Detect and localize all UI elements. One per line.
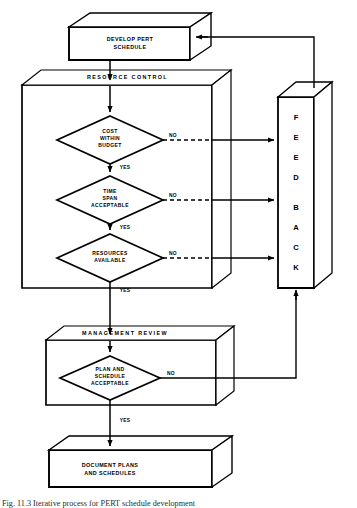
feedback-letter-f: F xyxy=(286,113,306,122)
decision-time-line1: TIME xyxy=(80,188,140,195)
feedback-letter-d: D xyxy=(286,173,306,182)
feedback-letter-b: B xyxy=(286,203,306,212)
decision-plan-line2: SCHEDULE xyxy=(77,373,143,380)
feedback-letter-k: K xyxy=(286,263,306,272)
develop-pert-schedule-line2: SCHEDULE xyxy=(89,44,171,51)
feedback-letter-e2: E xyxy=(286,153,306,162)
document-plans-line1: DOCUMENT PLANS xyxy=(69,462,151,469)
feedback-letter-c: C xyxy=(286,243,306,252)
decision-plan-line1: PLAN AND xyxy=(77,366,143,373)
decision-cost-line3: BUDGET xyxy=(80,142,140,149)
decision-cost-line1: COST xyxy=(80,128,140,135)
decision-time-line2: SPAN xyxy=(80,195,140,202)
decision-resources-line2: AVAILABLE xyxy=(76,257,144,264)
develop-pert-schedule-line1: DEVELOP PERT xyxy=(89,36,171,43)
branch-yes-time: YES xyxy=(114,225,136,231)
branch-yes-cost: YES xyxy=(114,165,136,171)
branch-yes-resources: YES xyxy=(114,288,136,294)
decision-plan-line3: ACCEPTABLE xyxy=(75,380,145,387)
figure-caption: Fig. 11.3 Iterative process for PERT sch… xyxy=(2,499,195,508)
feedback-letter-e1: E xyxy=(286,133,306,142)
decision-resources-line1: RESOURCES xyxy=(76,250,144,257)
document-plans-line2: AND SCHEDULES xyxy=(69,470,151,477)
decision-time-line3: ACCEPTABLE xyxy=(76,202,144,209)
branch-yes-plan: YES xyxy=(114,418,136,424)
feedback-letter-a: A xyxy=(286,223,306,232)
resource-control-label: RESOURCE CONTROL xyxy=(55,74,200,81)
branch-no-plan: NO xyxy=(161,371,181,377)
branch-no-cost: NO xyxy=(163,133,183,139)
branch-no-resources: NO xyxy=(163,251,183,257)
management-review-label: MANAGEMENT REVIEW xyxy=(50,330,200,337)
branch-no-time: NO xyxy=(163,193,183,199)
decision-cost-line2: WITHIN xyxy=(80,135,140,142)
